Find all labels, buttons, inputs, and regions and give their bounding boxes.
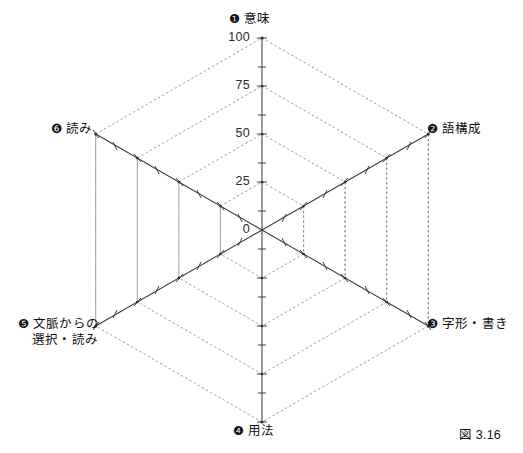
axis-label-3-glyph-writing: ❸ 字形・書き [427, 316, 508, 332]
axis-label-5-line2-row: 選択・読み [18, 332, 104, 348]
vertex-dot [261, 133, 264, 136]
vertex-dot [344, 277, 347, 280]
axis-marker-5: ❺ [18, 317, 29, 331]
axis-label-4-text: 用法 [248, 424, 274, 438]
radial-tick-label-75: 75 [200, 78, 250, 92]
axis-label-5-line1-row: ❺ 文脈からの [18, 316, 104, 332]
axis-label-2-word-formation: ❷ 語構成 [427, 121, 482, 137]
vertex-dot [261, 85, 264, 88]
figure-caption: 図 3.16 [459, 424, 501, 443]
radar-figure: 100 75 50 25 0 ❶ 意味 ❷ 語構成 ❸ 字形・書き ❹ 用法 ❺… [0, 0, 523, 453]
vertex-dot [344, 181, 347, 184]
radial-tick-label-25: 25 [200, 174, 250, 188]
radial-tick-label-100: 100 [200, 30, 250, 44]
radar-chart-canvas [0, 0, 523, 453]
vertex-dot [136, 157, 139, 160]
vertex-dot [94, 133, 97, 136]
axis-label-5-line1: 文脈からの [33, 317, 99, 331]
vertex-dot [261, 181, 264, 184]
vertex-dot [261, 277, 264, 280]
axis-marker-6: ❻ [51, 122, 62, 136]
vertex-dot [136, 301, 139, 304]
axis-label-5-line2: 選択・読み [32, 333, 98, 347]
vertex-dot [261, 373, 264, 376]
axis-label-4-usage: ❹ 用法 [233, 423, 275, 439]
axis-marker-4: ❹ [233, 424, 244, 438]
axis-marker-1: ❶ [229, 12, 240, 26]
vertex-dot [219, 253, 222, 256]
vertex-dot [178, 277, 181, 280]
vertex-dot [302, 253, 305, 256]
vertex-dot [178, 181, 181, 184]
axis-label-1-meaning: ❶ 意味 [229, 11, 271, 27]
axis-label-3-text: 字形・書き [442, 317, 508, 331]
axis-label-6-text: 読み [66, 122, 92, 136]
vertex-dot [385, 301, 388, 304]
radial-spokes [96, 38, 429, 422]
vertex-dot [261, 37, 264, 40]
vertex-dot [302, 205, 305, 208]
radial-tick-label-0: 0 [215, 222, 250, 236]
vertex-dot [261, 325, 264, 328]
axis-label-5-context-selection-reading: ❺ 文脈からの 選択・読み [18, 316, 104, 348]
radial-tick-label-50: 50 [200, 126, 250, 140]
axis-label-1-text: 意味 [244, 12, 270, 26]
axis-marker-3: ❸ [427, 317, 438, 331]
vertex-dot [219, 205, 222, 208]
axis-marker-2: ❷ [427, 122, 438, 136]
axis-label-6-reading: ❻ 読み [51, 121, 93, 137]
vertex-dot [385, 157, 388, 160]
axis-label-2-text: 語構成 [442, 122, 482, 136]
